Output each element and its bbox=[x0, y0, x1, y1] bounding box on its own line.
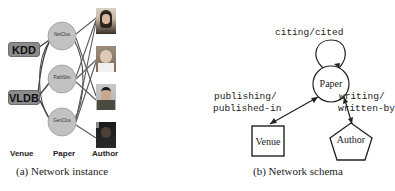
venue-node-kdd: KDD bbox=[8, 42, 40, 57]
author-photo-3 bbox=[96, 84, 116, 110]
venue-label: KDD bbox=[12, 44, 36, 56]
author-photo-2 bbox=[96, 46, 116, 72]
venue-node-vldb: VLDB bbox=[8, 90, 40, 105]
column-label-author: Author bbox=[92, 149, 118, 158]
relation-writing-line1: writing/ bbox=[339, 91, 385, 103]
self-loop-edge bbox=[316, 40, 345, 68]
schema-paper-label: Paper bbox=[313, 78, 349, 89]
relation-citing-cited: citing/cited bbox=[275, 27, 343, 39]
relation-writing-line2: written-by bbox=[338, 103, 395, 115]
paper-label: PathSim bbox=[48, 75, 76, 80]
column-label-venue: Venue bbox=[10, 149, 34, 158]
author-photo-4 bbox=[96, 122, 116, 148]
venue-label: VLDB bbox=[9, 92, 39, 104]
relation-publishing-line1: publishing/ bbox=[214, 91, 277, 103]
paper-label: NetClus bbox=[48, 32, 76, 37]
paper-label: GenClus bbox=[48, 118, 76, 123]
relation-publishing-line2: published-in bbox=[213, 103, 281, 115]
schema-author-label: Author bbox=[331, 134, 371, 145]
caption-network-schema: (b) Network schema bbox=[253, 165, 343, 177]
caption-network-instance: (a) Network instance bbox=[16, 165, 108, 177]
paper-author-edges bbox=[76, 18, 96, 138]
column-label-paper: Paper bbox=[53, 149, 75, 158]
schema-venue-label: Venue bbox=[252, 136, 284, 147]
author-photo-1 bbox=[96, 8, 116, 34]
